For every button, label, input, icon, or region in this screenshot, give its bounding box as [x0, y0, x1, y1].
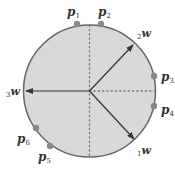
- point-p1-label: p1: [67, 5, 80, 20]
- vector-1w-label: 1w: [137, 144, 151, 158]
- point-p2-label: p2: [98, 5, 111, 20]
- point-p1-dot: [74, 21, 80, 27]
- vector-2w-label: 2w: [137, 27, 151, 41]
- point-p5-dot: [47, 143, 53, 149]
- point-p5-label: p5: [38, 150, 51, 165]
- vector-3w-label: 3w: [6, 85, 20, 99]
- point-p4-dot: [151, 103, 157, 109]
- point-p4-label: p4: [161, 103, 174, 118]
- point-p6-dot: [33, 125, 39, 131]
- point-p3-label: p3: [161, 70, 174, 85]
- diagram-canvas: 1w2w3wp1p2p3p4p5p6: [0, 0, 175, 172]
- point-p2-dot: [98, 21, 104, 27]
- point-p3-dot: [151, 73, 157, 79]
- point-p6-label: p6: [17, 132, 30, 147]
